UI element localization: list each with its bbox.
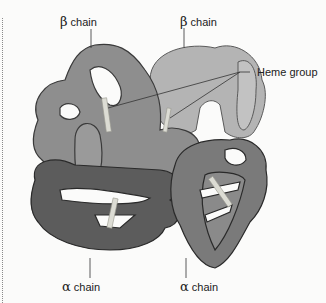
beta-symbol: β	[180, 14, 188, 29]
label-beta-chain-left: β chain	[60, 14, 97, 29]
alpha-chain-right-shape	[171, 139, 267, 268]
label-heme-group: Heme group	[257, 66, 318, 78]
label-alpha-chain-right: α chain	[180, 279, 218, 294]
label-beta-chain-right: β chain	[180, 14, 217, 29]
alpha-chain-left-shape	[31, 160, 179, 250]
beta-symbol: β	[60, 14, 68, 29]
label-alpha-chain-left: α chain	[62, 279, 100, 294]
alpha-symbol: α	[180, 279, 189, 294]
hemoglobin-diagram: β chain β chain Heme group α chain α cha…	[0, 0, 326, 303]
protein-illustration	[0, 0, 326, 303]
alpha-symbol: α	[62, 279, 71, 294]
